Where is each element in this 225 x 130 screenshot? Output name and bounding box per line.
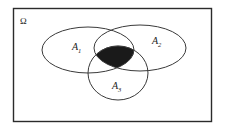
venn-diagram-figure: Ω A1 A2 A3 <box>0 0 225 130</box>
set-label-a1-subscript: 1 <box>78 47 81 54</box>
omega-label: Ω <box>20 16 27 26</box>
venn-diagram-canvas: Ω A1 A2 A3 <box>0 0 225 130</box>
